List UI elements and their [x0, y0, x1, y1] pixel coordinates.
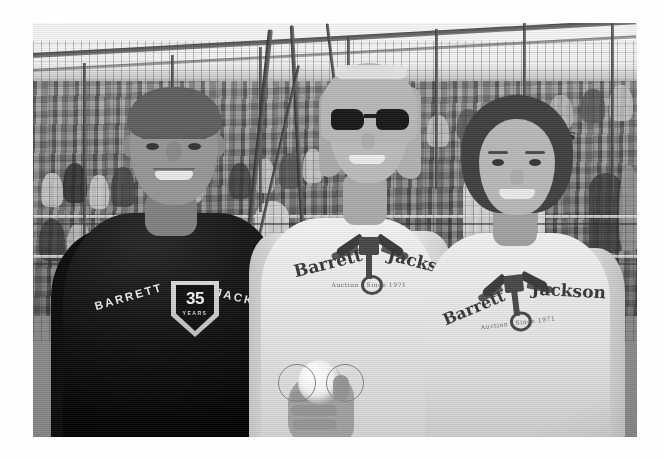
finger — [293, 419, 337, 430]
sunglass-bridge — [364, 114, 376, 118]
thumb — [333, 375, 349, 401]
sunglasses-icon — [331, 109, 409, 130]
sunglass-lens — [376, 109, 409, 130]
woman-right-eye — [529, 159, 541, 166]
badge-inner: 35 YEARS — [176, 285, 214, 331]
sunglass-lens — [331, 109, 364, 130]
man-torso-black-shirt — [63, 213, 278, 437]
baseball-seam — [278, 364, 316, 402]
man-eye — [146, 143, 159, 150]
woman-right-face — [479, 119, 555, 215]
badge-caption: YEARS — [183, 310, 208, 316]
photograph: als — [33, 23, 637, 437]
badge-number: 35 — [186, 289, 204, 309]
woman-right-torso-white-tee — [425, 233, 610, 437]
woman-right-eyebrow — [525, 151, 545, 154]
woman-right-mouth — [499, 189, 535, 199]
man-eyebrow — [183, 135, 207, 139]
fence-post — [435, 29, 438, 189]
woman-right-eye — [492, 159, 504, 166]
man-nose — [166, 141, 182, 161]
woman-right-eyebrow — [488, 151, 508, 154]
fence-post — [611, 23, 614, 193]
woman-center-headband — [335, 65, 407, 79]
man-eye — [188, 143, 201, 150]
woman-center-nose — [361, 133, 375, 149]
man-mouth — [155, 171, 193, 180]
man-eyebrow — [141, 135, 165, 139]
finger — [291, 405, 337, 416]
man-lip-line — [153, 168, 195, 170]
woman-right-nose — [510, 169, 524, 185]
woman-center-mouth — [349, 155, 385, 164]
fence-post — [83, 63, 86, 243]
page-canvas: als — [0, 0, 665, 460]
